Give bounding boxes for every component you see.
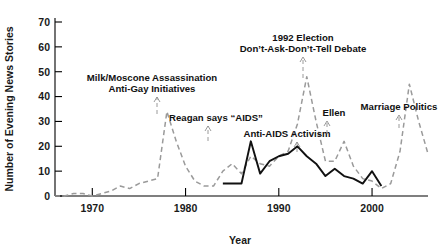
annotation-anti-aids-activism: Anti-AIDS Activism <box>243 128 330 152</box>
x-axis-title: Year <box>229 234 251 246</box>
annotation-layer: Milk/Moscone AssassinationAnti-Gay Initi… <box>87 32 438 153</box>
y-tick-label: 0 <box>44 190 50 202</box>
annotation-label: Marriage Politics <box>361 101 438 112</box>
annotation-1992-election: 1992 ElectionDon’t-Ask-Don’t-Tell Debate <box>240 32 367 79</box>
y-axis-ticks: 010203040506070 <box>38 16 62 202</box>
x-tick-label: 1990 <box>267 202 291 214</box>
y-tick-label: 70 <box>38 16 50 28</box>
y-axis-title: Number of Evening News Stories <box>3 26 15 191</box>
x-axis-group: 1970198019902000 <box>55 188 428 214</box>
x-tick-label: 1970 <box>81 202 105 214</box>
y-tick-label: 30 <box>38 115 50 127</box>
y-tick-label: 40 <box>38 90 50 102</box>
news-stories-line-chart: 010203040506070 1970198019902000 Milk/Mo… <box>0 0 441 249</box>
series-line-aids <box>223 141 382 186</box>
y-tick-label: 50 <box>38 66 50 78</box>
x-axis-ticks: 1970198019902000 <box>81 188 384 214</box>
annotation-marriage-politics: Marriage Politics <box>361 101 438 128</box>
annotation-label: Ellen <box>323 107 346 118</box>
y-tick-label: 10 <box>38 165 50 177</box>
annotation-milk-moscone: Milk/Moscone AssassinationAnti-Gay Initi… <box>87 72 217 115</box>
y-tick-label: 20 <box>38 140 50 152</box>
annotation-label: Anti-Gay Initiatives <box>109 83 196 94</box>
y-axis-group: 010203040506070 <box>38 16 62 202</box>
x-tick-label: 2000 <box>360 202 384 214</box>
chart-container: 010203040506070 1970198019902000 Milk/Mo… <box>0 0 441 249</box>
series-layer <box>55 77 428 196</box>
annotation-label: Don’t-Ask-Don’t-Tell Debate <box>240 43 367 54</box>
annotation-label: Anti-AIDS Activism <box>243 128 330 139</box>
x-tick-label: 1980 <box>174 202 198 214</box>
annotation-label: Milk/Moscone Assassination <box>87 72 217 83</box>
y-tick-label: 60 <box>38 41 50 53</box>
annotation-label: Reagan says “AIDS” <box>169 112 263 123</box>
series-line-gay-rights <box>55 77 428 196</box>
annotation-label: 1992 Election <box>272 32 333 43</box>
